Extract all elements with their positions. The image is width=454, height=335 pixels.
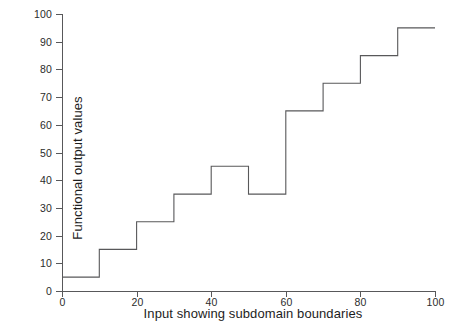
figure-caption	[14, 324, 314, 333]
x-axis-title: Input showing subdomain boundaries	[0, 306, 454, 321]
x-axis-title-text: Input showing subdomain boundaries	[144, 306, 363, 321]
step-function-line	[0, 0, 454, 335]
figure-container: Functional output values 010203040506070…	[0, 0, 454, 335]
